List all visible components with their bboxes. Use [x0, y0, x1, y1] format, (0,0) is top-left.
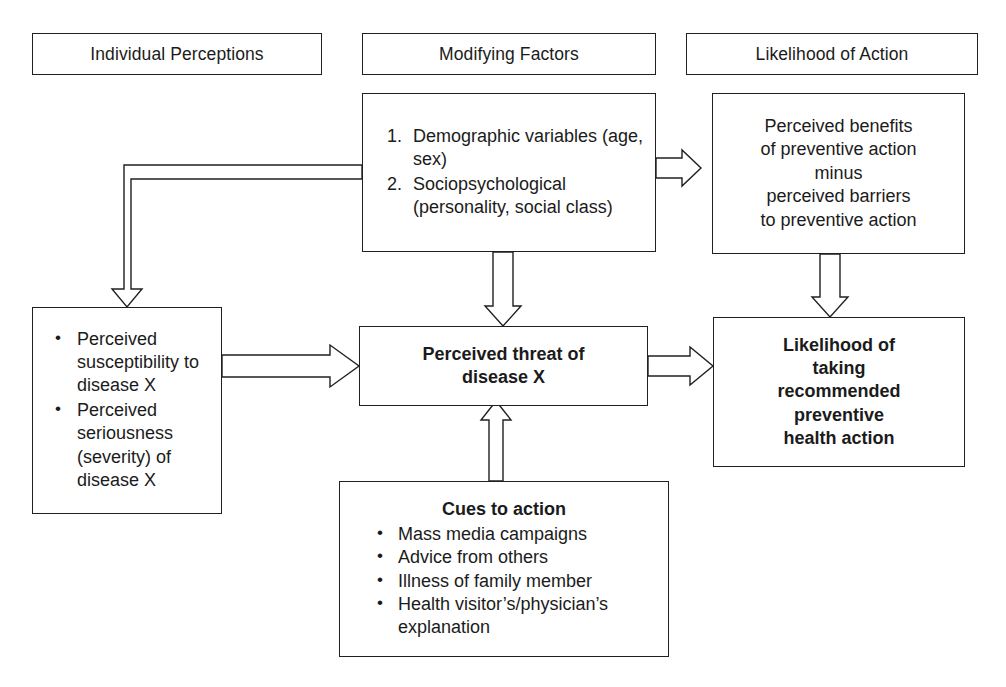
connector-individual-to-threat: [222, 345, 359, 387]
perceived-benefits-text: Perceived benefits of preventive action …: [713, 115, 964, 232]
list-item: Perceived seriousness (severity) of dise…: [75, 399, 215, 493]
node-perceived-threat: Perceived threat of disease X: [359, 326, 648, 406]
list-item: Advice from others: [398, 546, 662, 569]
connector-threat-to-likelihood: [648, 347, 713, 385]
list-item: Mass media campaigns: [398, 523, 662, 546]
node-individual-perceptions: Perceived susceptibility to disease X Pe…: [32, 307, 222, 514]
modifying-factors-list: Demographic variables (age, sex) Sociops…: [363, 125, 655, 221]
list-item-continuation: explanation: [398, 616, 662, 639]
perceived-threat-text: Perceived threat of disease X: [360, 343, 647, 390]
header-likelihood-of-action-label: Likelihood of Action: [756, 44, 909, 65]
connector-modifying-to-threat: [485, 252, 521, 326]
node-perceived-benefits: Perceived benefits of preventive action …: [712, 93, 965, 254]
header-modifying-factors: Modifying Factors: [362, 33, 656, 75]
individual-perceptions-list: Perceived susceptibility to disease X Pe…: [33, 328, 221, 494]
connector-benefits-to-likelihood: [812, 254, 848, 317]
list-item: Illness of family member: [398, 570, 662, 593]
header-modifying-factors-label: Modifying Factors: [439, 44, 579, 65]
cues-to-action-list: Mass media campaigns Advice from others …: [340, 523, 668, 640]
node-cues-to-action: Cues to action Mass media campaigns Advi…: [339, 481, 669, 657]
cues-to-action-title: Cues to action: [340, 498, 668, 521]
header-individual-perceptions: Individual Perceptions: [32, 33, 322, 75]
list-item: Demographic variables (age, sex): [407, 125, 645, 172]
connector-modifying-to-individual: [112, 165, 362, 307]
node-likelihood-taking-action: Likelihood of taking recommended prevent…: [713, 317, 965, 467]
header-individual-perceptions-label: Individual Perceptions: [90, 44, 263, 65]
node-modifying-factors: Demographic variables (age, sex) Sociops…: [362, 93, 656, 252]
diagram-canvas: Individual Perceptions Modifying Factors…: [0, 0, 1006, 687]
list-item: Perceived susceptibility to disease X: [75, 328, 215, 398]
list-item: Sociopsychological (personality, social …: [407, 173, 645, 220]
likelihood-taking-text: Likelihood of taking recommended prevent…: [714, 334, 964, 451]
connector-modifying-to-benefits: [656, 150, 701, 186]
connector-cues-to-threat: [481, 401, 511, 481]
header-likelihood-of-action: Likelihood of Action: [686, 33, 978, 75]
list-item: Health visitor’s/physician’s: [398, 593, 662, 616]
